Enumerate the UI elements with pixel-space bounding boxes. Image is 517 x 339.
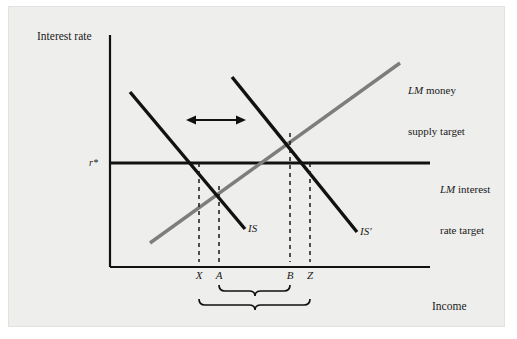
- point-label-a: A: [213, 269, 225, 282]
- lm-interest-rate-abbrev: LM: [440, 183, 455, 195]
- inner-brace: [219, 285, 290, 296]
- point-label-x: X: [193, 269, 205, 282]
- lm-interest-rate-target-word: rate target: [440, 224, 490, 238]
- is-curve: [130, 92, 245, 229]
- shift-arrow-icon: [186, 116, 246, 125]
- outer-brace: [199, 299, 310, 310]
- figure-container: Interest rate Income r* IS IS′ LM money …: [0, 0, 517, 339]
- point-label-z: Z: [304, 269, 316, 282]
- x-axis-label: Income: [432, 300, 466, 313]
- is-prime-curve: [232, 77, 357, 232]
- lm-money-supply-word: money: [423, 84, 456, 96]
- lm-money-supply-target-word: supply target: [408, 125, 465, 139]
- y-axis-label: Interest rate: [37, 30, 92, 43]
- interest-rate-marker-label: r*: [89, 156, 98, 169]
- is-prime-curve-label: IS′: [360, 225, 372, 238]
- lm-interest-rate-target-label: LM interest rate target: [440, 156, 490, 264]
- lm-money-supply-abbrev: LM: [408, 84, 423, 96]
- lm-money-supply-target-curve: [150, 63, 400, 243]
- lm-money-supply-target-label: LM money supply target: [408, 57, 465, 165]
- point-label-b: B: [284, 269, 296, 282]
- lm-interest-rate-word: interest: [455, 183, 490, 195]
- is-curve-label: IS: [248, 222, 257, 235]
